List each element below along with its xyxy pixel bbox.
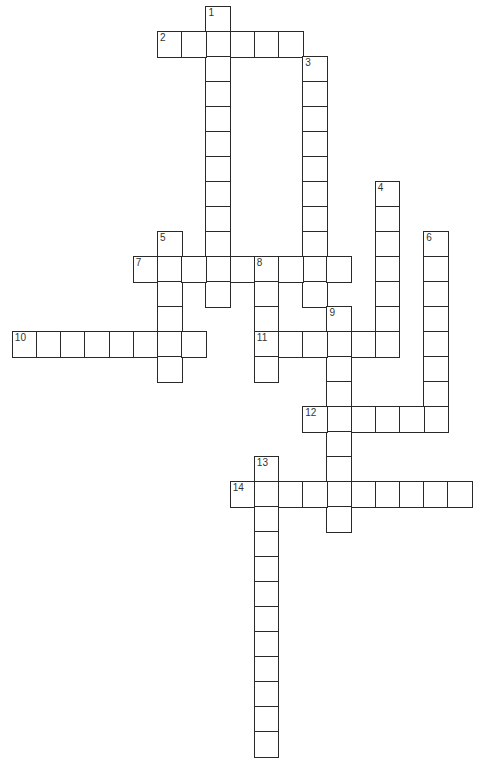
- crossword-cell[interactable]: [205, 281, 231, 307]
- letter-input[interactable]: [303, 407, 327, 431]
- letter-input[interactable]: [206, 7, 230, 31]
- letter-input[interactable]: [206, 257, 230, 281]
- letter-input[interactable]: [37, 332, 61, 356]
- letter-input[interactable]: [206, 182, 230, 206]
- letter-input[interactable]: [327, 257, 351, 281]
- crossword-cell[interactable]: [375, 256, 401, 282]
- letter-input[interactable]: [327, 307, 351, 331]
- crossword-cell[interactable]: [326, 356, 352, 382]
- letter-input[interactable]: [231, 257, 255, 281]
- crossword-cell[interactable]: [60, 331, 86, 357]
- letter-input[interactable]: [255, 307, 279, 331]
- crossword-cell[interactable]: [254, 356, 280, 382]
- crossword-cell[interactable]: [181, 31, 207, 57]
- letter-input[interactable]: [255, 507, 279, 531]
- letter-input[interactable]: [376, 282, 400, 306]
- crossword-cell[interactable]: [326, 406, 352, 432]
- crossword-cell[interactable]: 8: [254, 256, 280, 282]
- crossword-cell[interactable]: [302, 156, 328, 182]
- crossword-cell[interactable]: [302, 481, 328, 507]
- crossword-cell[interactable]: [254, 581, 280, 607]
- letter-input[interactable]: [255, 707, 279, 731]
- letter-input[interactable]: [206, 232, 230, 256]
- crossword-cell[interactable]: [278, 31, 304, 57]
- crossword-cell[interactable]: [254, 531, 280, 557]
- crossword-cell[interactable]: [157, 281, 183, 307]
- letter-input[interactable]: [376, 332, 400, 356]
- crossword-cell[interactable]: [375, 481, 401, 507]
- crossword-cell[interactable]: [423, 256, 449, 282]
- letter-input[interactable]: [255, 632, 279, 656]
- letter-input[interactable]: [279, 32, 303, 56]
- crossword-cell[interactable]: [157, 356, 183, 382]
- letter-input[interactable]: [400, 482, 424, 506]
- letter-input[interactable]: [158, 257, 182, 281]
- letter-input[interactable]: [134, 332, 158, 356]
- letter-input[interactable]: [255, 732, 279, 756]
- crossword-cell[interactable]: 7: [133, 256, 159, 282]
- crossword-cell[interactable]: [254, 631, 280, 657]
- crossword-cell[interactable]: [302, 256, 328, 282]
- crossword-cell[interactable]: [205, 256, 231, 282]
- crossword-cell[interactable]: 12: [302, 406, 328, 432]
- crossword-cell[interactable]: [254, 731, 280, 757]
- letter-input[interactable]: [352, 482, 376, 506]
- crossword-cell[interactable]: [254, 306, 280, 332]
- crossword-cell[interactable]: [254, 656, 280, 682]
- letter-input[interactable]: [206, 132, 230, 156]
- letter-input[interactable]: [303, 57, 327, 81]
- crossword-cell[interactable]: [254, 606, 280, 632]
- letter-input[interactable]: [255, 682, 279, 706]
- crossword-cell[interactable]: [375, 206, 401, 232]
- letter-input[interactable]: [158, 282, 182, 306]
- crossword-cell[interactable]: [423, 331, 449, 357]
- crossword-cell[interactable]: [36, 331, 62, 357]
- crossword-cell[interactable]: [205, 156, 231, 182]
- crossword-cell[interactable]: [302, 206, 328, 232]
- letter-input[interactable]: [303, 82, 327, 106]
- crossword-cell[interactable]: [302, 81, 328, 107]
- crossword-cell[interactable]: [351, 406, 377, 432]
- crossword-cell[interactable]: [399, 406, 425, 432]
- letter-input[interactable]: [448, 482, 472, 506]
- crossword-cell[interactable]: [375, 331, 401, 357]
- crossword-cell[interactable]: [326, 256, 352, 282]
- crossword-cell[interactable]: [254, 31, 280, 57]
- crossword-cell[interactable]: [302, 231, 328, 257]
- crossword-cell[interactable]: [326, 481, 352, 507]
- crossword-cell[interactable]: [181, 256, 207, 282]
- letter-input[interactable]: [206, 207, 230, 231]
- letter-input[interactable]: [206, 107, 230, 131]
- letter-input[interactable]: [303, 257, 327, 281]
- letter-input[interactable]: [13, 332, 37, 356]
- letter-input[interactable]: [206, 32, 230, 56]
- letter-input[interactable]: [255, 32, 279, 56]
- letter-input[interactable]: [182, 257, 206, 281]
- crossword-cell[interactable]: [375, 231, 401, 257]
- letter-input[interactable]: [255, 607, 279, 631]
- letter-input[interactable]: [182, 332, 206, 356]
- crossword-cell[interactable]: [423, 406, 449, 432]
- letter-input[interactable]: [303, 157, 327, 181]
- crossword-cell[interactable]: [423, 281, 449, 307]
- letter-input[interactable]: [231, 32, 255, 56]
- crossword-cell[interactable]: [254, 281, 280, 307]
- letter-input[interactable]: [255, 657, 279, 681]
- crossword-cell[interactable]: [254, 481, 280, 507]
- letter-input[interactable]: [255, 282, 279, 306]
- letter-input[interactable]: [327, 407, 351, 431]
- crossword-cell[interactable]: [254, 556, 280, 582]
- letter-input[interactable]: [255, 332, 279, 356]
- letter-input[interactable]: [376, 407, 400, 431]
- crossword-cell[interactable]: [205, 206, 231, 232]
- crossword-cell[interactable]: [302, 331, 328, 357]
- letter-input[interactable]: [110, 332, 134, 356]
- crossword-cell[interactable]: [326, 331, 352, 357]
- crossword-cell[interactable]: [351, 481, 377, 507]
- letter-input[interactable]: [158, 232, 182, 256]
- crossword-cell[interactable]: [302, 181, 328, 207]
- letter-input[interactable]: [134, 257, 158, 281]
- crossword-cell[interactable]: [351, 331, 377, 357]
- letter-input[interactable]: [327, 382, 351, 406]
- crossword-cell[interactable]: [326, 506, 352, 532]
